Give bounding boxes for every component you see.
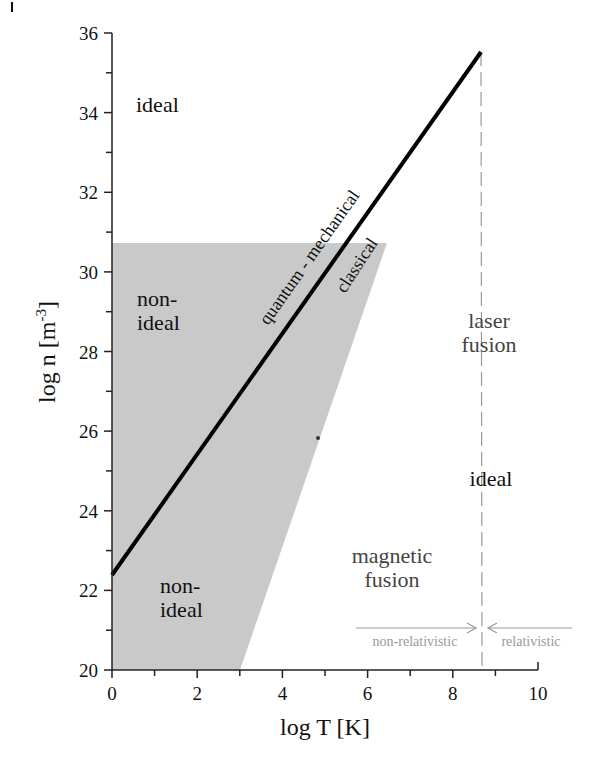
y-axis-title-sup: -3	[33, 309, 49, 322]
x-tick-label: 0	[107, 683, 117, 704]
label-ideal-right: ideal	[470, 466, 513, 491]
label-non-relativistic: non-relativistic	[373, 634, 458, 649]
y-tick-labels: 20 22 24 26 28 30 32 34 36	[79, 23, 99, 681]
label-nonideal-lower-1: non-	[160, 573, 200, 598]
relativistic-boundary-line	[481, 52, 482, 668]
relativistic-arrow	[488, 623, 572, 633]
y-tick-label: 22	[79, 580, 98, 601]
y-tick-label: 30	[79, 262, 98, 283]
label-magnetic-2: fusion	[365, 567, 420, 592]
y-tick-label: 26	[79, 421, 98, 442]
x-tick-label: 6	[363, 683, 373, 704]
non-relativistic-arrow	[356, 623, 476, 633]
label-nonideal-lower-2: ideal	[160, 597, 203, 622]
y-axis-title-main: log n [m	[34, 321, 60, 403]
label-magnetic-1: magnetic	[352, 543, 433, 568]
label-relativistic: relativistic	[501, 634, 560, 649]
label-ideal-top: ideal	[136, 92, 179, 117]
label-laser-1: laser	[468, 308, 510, 333]
y-tick-label: 36	[79, 23, 98, 44]
y-tick-label: 34	[79, 103, 99, 124]
label-nonideal-upper-2: ideal	[137, 310, 180, 335]
label-laser-2: fusion	[462, 332, 517, 357]
x-tick-label: 2	[192, 683, 202, 704]
x-tick-label: 4	[278, 683, 288, 704]
x-axis-title: log T [K]	[280, 714, 370, 740]
x-tick-labels: 0 2 4 6 8 10	[107, 683, 547, 704]
data-dot	[316, 436, 320, 440]
plasma-phase-diagram: 20 22 24 26 28 30 32 34 36 0 2 4 6 8 10 …	[0, 0, 600, 764]
y-tick-label: 20	[79, 660, 98, 681]
y-axis-title: log n [m-3]	[33, 301, 60, 403]
y-tick-label: 24	[79, 501, 99, 522]
y-axis-title-end: ]	[34, 301, 60, 309]
label-nonideal-upper-1: non-	[137, 286, 177, 311]
y-tick-label: 28	[79, 342, 98, 363]
x-tick-label: 8	[448, 683, 458, 704]
y-ticks	[104, 33, 112, 630]
x-tick-label: 10	[529, 683, 548, 704]
y-tick-label: 32	[79, 182, 98, 203]
